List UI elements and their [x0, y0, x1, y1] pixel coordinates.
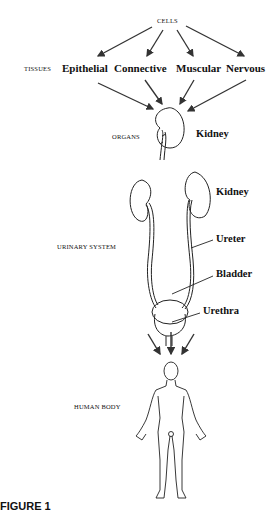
level-label-tissues: TISSUES — [24, 65, 51, 72]
level-label-organs: ORGANS — [112, 133, 140, 140]
tissue-muscular: Muscular — [176, 62, 221, 74]
cells-to-tissues-arrows — [98, 26, 244, 56]
level-label-human-body: HUMAN BODY — [74, 403, 121, 410]
tissue-connective: Connective — [114, 62, 167, 74]
system-label-kidney: Kidney — [216, 186, 249, 197]
tissue-nervous: Nervous — [226, 62, 265, 74]
organ-label-kidney: Kidney — [196, 128, 229, 139]
human-body-drawing — [136, 362, 206, 498]
urinary-system-drawing — [130, 172, 210, 346]
level-label-urinary-system: URINARY SYSTEM — [57, 243, 116, 250]
system-label-ureter: Ureter — [216, 233, 246, 244]
diagram-artwork — [0, 0, 272, 511]
system-label-urethra: Urethra — [203, 305, 239, 316]
system-label-bladder: Bladder — [216, 268, 252, 279]
system-to-body-arrows — [148, 332, 194, 354]
organ-kidney-drawing — [156, 108, 185, 160]
tissues-to-organ-arrows — [98, 80, 246, 111]
tissue-epithelial: Epithelial — [62, 62, 108, 74]
level-label-cells: CELLS — [157, 17, 178, 24]
figure-caption: FIGURE 1 — [0, 500, 51, 511]
